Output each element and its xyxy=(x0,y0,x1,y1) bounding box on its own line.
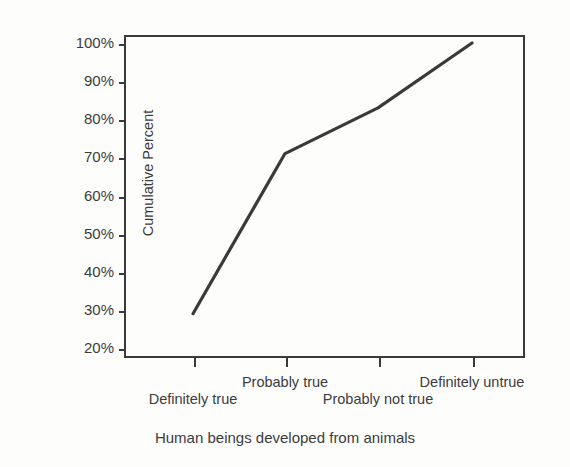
y-tick-mark xyxy=(119,311,126,313)
x-tick-mark xyxy=(473,358,475,367)
x-axis-label-0: Definitely true xyxy=(149,391,238,407)
x-tick-mark xyxy=(194,358,196,367)
y-axis-title: Cumulative Percent xyxy=(140,63,156,283)
x-tick-mark xyxy=(379,358,381,367)
x-axis-label-3: Definitely untrue xyxy=(420,374,525,390)
y-tick-label: 70% xyxy=(84,148,114,165)
x-tick-mark xyxy=(286,358,288,367)
y-tick-label: 60% xyxy=(84,187,114,204)
y-tick-mark xyxy=(119,273,126,275)
y-tick-label: 40% xyxy=(84,263,114,280)
y-tick-label: 20% xyxy=(84,339,114,356)
y-tick-mark xyxy=(119,197,126,199)
plot-area: 100%90%80%70%60%50%40%30%20% Cumulative … xyxy=(124,35,525,358)
y-tick-mark xyxy=(119,235,126,237)
y-tick-label: 100% xyxy=(76,34,114,51)
chart-figure: 100%90%80%70%60%50%40%30%20% Cumulative … xyxy=(0,0,570,467)
y-tick-label: 90% xyxy=(84,72,114,89)
x-axis-title: Human beings developed from animals xyxy=(0,429,570,446)
x-axis-label-2: Probably not true xyxy=(323,391,433,407)
y-tick-mark xyxy=(119,349,126,351)
y-tick-mark xyxy=(119,44,126,46)
y-tick-mark xyxy=(119,82,126,84)
y-tick-mark xyxy=(119,158,126,160)
y-tick-label: 30% xyxy=(84,301,114,318)
y-tick-label: 50% xyxy=(84,225,114,242)
y-tick-mark xyxy=(119,120,126,122)
y-tick-label: 80% xyxy=(84,110,114,127)
x-axis-label-1: Probably true xyxy=(242,374,328,390)
